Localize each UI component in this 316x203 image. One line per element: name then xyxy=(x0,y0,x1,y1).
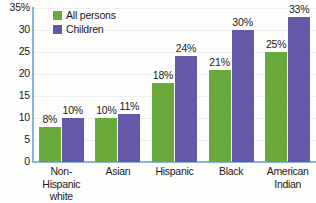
bar-group: 21%30% xyxy=(203,8,260,162)
x-axis-category-label: Black xyxy=(203,165,260,203)
legend-swatch-green-icon xyxy=(53,11,62,20)
y-axis-tick-label: 15 xyxy=(0,89,30,101)
x-axis-category-label-line: Asian xyxy=(90,165,147,178)
x-axis-category-label-line: Indian xyxy=(259,178,316,191)
legend-item-children: Children xyxy=(53,23,116,35)
x-axis-category-label: Asian xyxy=(90,165,147,203)
bar-value-label: 25% xyxy=(266,38,286,50)
bar-value-label: 30% xyxy=(232,16,252,28)
x-axis-category-label: AmericanIndian xyxy=(259,165,316,203)
bar: 30% xyxy=(232,30,254,162)
bar-value-label: 10% xyxy=(96,104,116,116)
y-axis-tick-labels: 35%302520151050 xyxy=(0,0,30,203)
x-axis-category-label-line: white xyxy=(33,190,90,203)
bar: 11% xyxy=(118,114,140,162)
bar: 10% xyxy=(62,118,84,162)
x-axis-category-label-line: American xyxy=(259,165,316,178)
bar-value-label: 11% xyxy=(120,100,140,112)
x-axis-category-label-line: Non-Hispanic xyxy=(33,165,90,190)
bar-value-label: 33% xyxy=(289,3,309,15)
bar-group: 25%33% xyxy=(259,8,316,162)
bar-value-label: 10% xyxy=(63,104,83,116)
bar: 10% xyxy=(95,118,117,162)
legend-label-all-persons: All persons xyxy=(66,10,116,21)
y-axis-tick-label: 30 xyxy=(0,23,30,35)
x-axis-category-label-line: Black xyxy=(203,165,260,178)
legend-label-children: Children xyxy=(66,24,104,35)
y-axis-tick-label: 5 xyxy=(0,133,30,145)
legend: All persons Children xyxy=(53,9,116,35)
x-axis-category-label-line: Hispanic xyxy=(146,165,203,178)
x-axis-category-label: Non-Hispanicwhite xyxy=(33,165,90,203)
bar: 18% xyxy=(152,83,174,162)
bar: 24% xyxy=(175,56,197,162)
bar-group: 18%24% xyxy=(146,8,203,162)
x-axis-category-label: Hispanic xyxy=(146,165,203,203)
y-axis-tick-label: 10 xyxy=(0,111,30,123)
legend-item-all-persons: All persons xyxy=(53,9,116,21)
bar: 33% xyxy=(288,17,310,162)
x-axis-category-labels: Non-HispanicwhiteAsianHispanicBlackAmeri… xyxy=(33,165,316,203)
y-axis-tick-label: 25 xyxy=(0,45,30,57)
bar-value-label: 21% xyxy=(209,56,229,68)
y-axis-tick-label: 0 xyxy=(0,155,30,167)
legend-swatch-purple-icon xyxy=(53,25,62,34)
bar: 8% xyxy=(39,127,61,162)
y-axis-tick-label: 35% xyxy=(0,1,30,13)
bar-value-label: 24% xyxy=(176,42,196,54)
bar-chart: 35%302520151050 8%10%10%11%18%24%21%30%2… xyxy=(0,0,316,203)
y-axis-tick-label: 20 xyxy=(0,67,30,79)
bar: 25% xyxy=(265,52,287,162)
bar-value-label: 8% xyxy=(42,113,57,125)
bar-value-label: 18% xyxy=(153,69,173,81)
bar: 21% xyxy=(209,70,231,162)
